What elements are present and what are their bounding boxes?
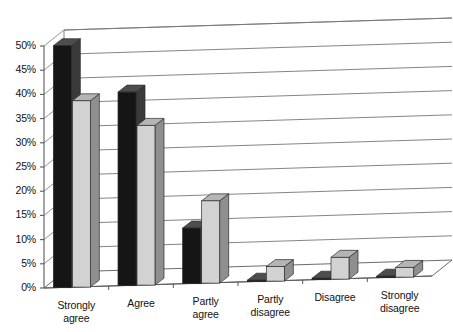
bar-1-series-2 [72,94,99,287]
bar-chart: 0%5%10%15%20%25%30%35%40%45%50%Strongly … [0,0,453,332]
y-axis-tick-label: 40% [0,87,36,99]
bar-2-series-2 [137,118,164,285]
bar-3-series-2 [202,194,229,283]
y-axis-tick-label: 30% [0,136,36,148]
x-axis-category-label: Strongly disagree [361,289,439,314]
y-axis-tick-label: 15% [0,208,36,220]
bar-5-series-2 [331,250,358,279]
y-axis-tick-label: 35% [0,112,36,124]
y-axis-tick-label: 20% [0,184,36,196]
y-axis-tick-label: 10% [0,233,36,245]
y-axis-tick-label: 25% [0,160,36,172]
chart-plot-area [0,0,453,332]
y-axis-tick-label: 45% [0,63,36,75]
y-axis-tick-label: 0% [0,281,36,293]
y-axis-tick-label: 50% [0,39,36,51]
y-axis-tick-label: 5% [0,257,36,269]
